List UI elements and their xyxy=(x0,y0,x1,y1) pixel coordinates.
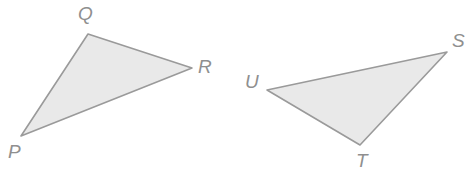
vertex-label-t: T xyxy=(356,151,368,170)
vertex-label-r: R xyxy=(198,57,212,76)
triangle-pqr-shape xyxy=(21,34,192,136)
vertex-label-q: Q xyxy=(78,4,93,23)
geometry-figure: P Q R S T U xyxy=(0,0,474,179)
vertex-label-u: U xyxy=(245,72,259,91)
figure-canvas xyxy=(0,0,474,179)
vertex-label-p: P xyxy=(8,142,21,161)
vertex-label-s: S xyxy=(452,31,465,50)
triangle-stu-shape xyxy=(267,52,447,145)
